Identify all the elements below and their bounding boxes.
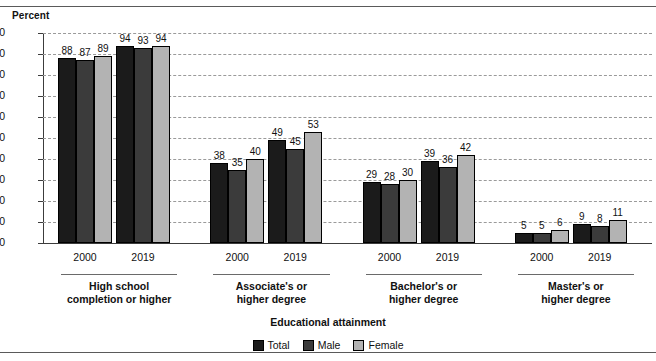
period-label-2000: 2000 [55, 251, 115, 263]
bar-female-2019-g0 [152, 46, 170, 243]
group-caption: Bachelor's orhigher degree [348, 280, 500, 305]
bar-total-2019-g2 [421, 161, 439, 243]
bar-female-2000-g3 [551, 230, 569, 243]
bar-value-label: 53 [298, 119, 328, 130]
legend-item-male[interactable]: Male [303, 339, 341, 351]
y-axis-title: Percent [12, 10, 49, 21]
group-separator-rule [518, 274, 634, 275]
bar-male-2000-g1 [228, 170, 246, 244]
legend-label: Total [268, 339, 290, 351]
y-tick-30 [38, 180, 43, 181]
legend-label: Male [318, 339, 341, 351]
plot-area: 8887899493943835404945532928303936425569… [43, 33, 652, 243]
group-caption: Master's orhigher degree [500, 280, 652, 305]
bar-total-2000-g2 [363, 182, 381, 243]
bar-male-2019-g2 [439, 167, 457, 243]
y-tick-60 [38, 117, 43, 118]
y-tick-100 [38, 33, 43, 34]
period-label-2019: 2019 [113, 251, 173, 263]
top-divider-rule [0, 6, 656, 7]
period-label-2019: 2019 [570, 251, 630, 263]
bar-value-label: 94 [146, 33, 176, 44]
legend-swatch-total-icon [253, 340, 264, 351]
bar-male-2019-g0 [134, 48, 152, 243]
y-tick-0 [38, 243, 43, 244]
period-label-2019: 2019 [265, 251, 325, 263]
bottom-divider-rule [0, 352, 656, 353]
bar-male-2000-g2 [381, 184, 399, 243]
bar-male-2019-g3 [591, 226, 609, 243]
chart-legend: TotalMaleFemale [0, 339, 656, 351]
y-tick-label-80: 80 [0, 68, 5, 80]
bar-female-2019-g3 [609, 220, 627, 243]
y-tick-label-0: 0 [0, 236, 5, 248]
bar-male-2019-g1 [286, 149, 304, 244]
y-tick-label-50: 50 [0, 131, 5, 143]
bar-female-2000-g0 [94, 56, 112, 243]
group-caption-line-2: higher degree [500, 293, 652, 306]
bar-total-2019-g1 [268, 140, 286, 243]
bar-total-2000-g0 [58, 58, 76, 243]
legend-swatch-female-icon [353, 340, 364, 351]
y-tick-label-20: 20 [0, 194, 5, 206]
group-caption-line-1: Associate's or [195, 280, 347, 293]
legend-label: Female [368, 339, 403, 351]
y-tick-label-60: 60 [0, 110, 5, 122]
group-caption-line-2: higher degree [195, 293, 347, 306]
y-tick-label-30: 30 [0, 173, 5, 185]
period-label-2019: 2019 [418, 251, 478, 263]
y-tick-label-10: 10 [0, 215, 5, 227]
y-tick-40 [38, 159, 43, 160]
group-caption: Associate's orhigher degree [195, 280, 347, 305]
group-caption: High schoolcompletion or higher [43, 280, 195, 305]
group-separator-rule [366, 274, 482, 275]
legend-item-total[interactable]: Total [253, 339, 290, 351]
group-caption-line-1: Bachelor's or [348, 280, 500, 293]
bar-female-2019-g1 [304, 132, 322, 243]
bar-chart-figure: Percent 88878994939438354049455329283039… [0, 0, 656, 361]
bar-male-2000-g3 [533, 233, 551, 244]
group-caption-line-2: completion or higher [43, 293, 195, 306]
group-separator-rule [213, 274, 329, 275]
bar-total-2019-g3 [573, 224, 591, 243]
gridline-0 [43, 243, 652, 244]
y-tick-10 [38, 222, 43, 223]
bar-value-label: 89 [88, 43, 118, 54]
bar-female-2000-g2 [399, 180, 417, 243]
bar-value-label: 30 [393, 167, 423, 178]
bar-value-label: 42 [451, 142, 481, 153]
x-axis-title: Educational attainment [0, 316, 656, 328]
bar-value-label: 40 [240, 146, 270, 157]
bar-male-2000-g0 [76, 60, 94, 243]
period-label-2000: 2000 [207, 251, 267, 263]
y-tick-70 [38, 96, 43, 97]
legend-item-female[interactable]: Female [353, 339, 403, 351]
group-caption-line-2: higher degree [348, 293, 500, 306]
y-tick-20 [38, 201, 43, 202]
y-tick-50 [38, 138, 43, 139]
group-caption-line-1: High school [43, 280, 195, 293]
y-tick-80 [38, 75, 43, 76]
period-label-2000: 2000 [360, 251, 420, 263]
y-tick-90 [38, 54, 43, 55]
bar-female-2019-g2 [457, 155, 475, 243]
bar-value-label: 11 [603, 207, 633, 218]
legend-swatch-male-icon [303, 340, 314, 351]
bar-total-2019-g0 [116, 46, 134, 243]
y-tick-label-70: 70 [0, 89, 5, 101]
group-caption-line-1: Master's or [500, 280, 652, 293]
y-tick-label-40: 40 [0, 152, 5, 164]
bar-female-2000-g1 [246, 159, 264, 243]
bar-total-2000-g1 [210, 163, 228, 243]
y-tick-label-90: 90 [0, 47, 5, 59]
group-separator-rule [61, 274, 177, 275]
period-label-2000: 2000 [512, 251, 572, 263]
bar-total-2000-g3 [515, 233, 533, 244]
y-tick-label-100: 100 [0, 26, 5, 38]
